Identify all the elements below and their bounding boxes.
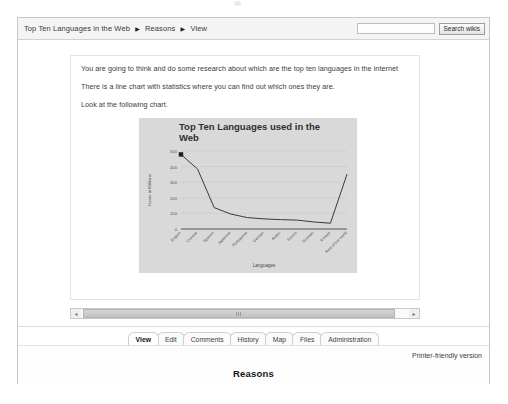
scroll-left-arrow-icon[interactable]: ◄ xyxy=(71,309,81,318)
scrollbar-track[interactable] xyxy=(81,309,409,318)
page-title: Reasons xyxy=(18,368,489,379)
tab-comments[interactable]: Comments xyxy=(183,332,232,345)
scrollbar-grip-icon xyxy=(236,312,242,316)
tab-administration[interactable]: Administration xyxy=(320,332,379,345)
scan-artifact xyxy=(234,1,241,6)
printer-friendly-link[interactable]: Printer-friendly version xyxy=(412,352,482,359)
svg-text:100: 100 xyxy=(170,211,178,216)
scrollbar-thumb[interactable] xyxy=(83,309,395,318)
tab-strip: View Edit Comments History Map Files Adm… xyxy=(18,326,489,345)
breadcrumb-item-reasons[interactable]: Reasons xyxy=(145,24,175,33)
chart-y-axis-label: Users in Millions xyxy=(147,173,152,206)
tab-history[interactable]: History xyxy=(230,332,267,345)
svg-text:Top Ten Languages used in the: Top Ten Languages used in the xyxy=(179,121,320,132)
article-paragraph-3: Look at the following chart. xyxy=(81,100,411,109)
breadcrumb-item-view: View xyxy=(190,24,207,33)
breadcrumb-separator-icon: ▶ xyxy=(181,25,186,32)
svg-text:Users in Millions: Users in Millions xyxy=(147,173,152,206)
scroll-right-arrow-icon[interactable]: ► xyxy=(409,309,419,318)
svg-text:500: 500 xyxy=(170,149,178,154)
svg-text:Web: Web xyxy=(179,132,199,143)
chart-x-axis-label: Languages xyxy=(253,263,276,268)
line-chart-figure: Top Ten Languages used in theWeb Users i… xyxy=(139,118,357,273)
tab-files[interactable]: Files xyxy=(292,332,322,345)
svg-text:300: 300 xyxy=(170,180,178,185)
article-paragraph-1: You are going to think and do some resea… xyxy=(81,64,411,73)
svg-text:200: 200 xyxy=(170,196,178,201)
article-body: You are going to think and do some resea… xyxy=(70,55,420,300)
horizontal-scrollbar[interactable]: ◄ ► xyxy=(70,308,420,319)
breadcrumb-separator-icon: ▶ xyxy=(135,25,140,32)
page-footer: Printer-friendly version Reasons xyxy=(18,345,489,384)
tab-map[interactable]: Map xyxy=(265,332,294,345)
wiki-page-frame: Top Ten Languages in the Web ▶ Reasons ▶… xyxy=(17,17,490,384)
svg-text:Languages: Languages xyxy=(253,263,276,268)
breadcrumb-item-wiki[interactable]: Top Ten Languages in the Web xyxy=(24,24,130,33)
search-input[interactable] xyxy=(357,23,435,34)
svg-text:400: 400 xyxy=(170,165,178,170)
top-bar: Top Ten Languages in the Web ▶ Reasons ▶… xyxy=(18,18,489,40)
breadcrumb: Top Ten Languages in the Web ▶ Reasons ▶… xyxy=(24,24,357,33)
content-viewport: You are going to think and do some resea… xyxy=(18,40,489,326)
tab-view[interactable]: View xyxy=(128,332,159,345)
tab-edit[interactable]: Edit xyxy=(157,332,185,345)
line-chart-svg: Top Ten Languages used in theWeb Users i… xyxy=(139,118,357,273)
article-paragraph-2: There is a line chart with statistics wh… xyxy=(81,82,411,91)
search-wikis-button[interactable]: Search wikis xyxy=(439,23,485,35)
